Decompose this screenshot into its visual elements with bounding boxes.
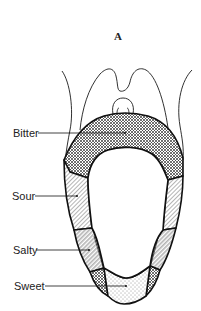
label-salty: Salty [13,244,37,256]
label-sour: Sour [12,190,35,202]
tongue-diagram [0,0,201,311]
label-sweet: Sweet [14,280,45,292]
papilla [113,98,134,114]
tongue-regions [64,113,183,304]
label-bitter: Bitter [13,127,39,139]
